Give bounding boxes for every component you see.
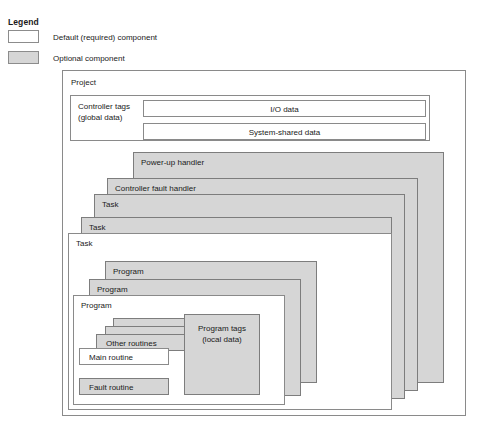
controller-tags-label-line2: (global data) xyxy=(78,113,122,122)
system-shared-data-box: System-shared data xyxy=(143,123,426,140)
io-data-label: I/O data xyxy=(144,104,425,113)
task-label-2: Task xyxy=(89,223,105,233)
fault-routine-box: Fault routine xyxy=(79,378,169,395)
io-data-box: I/O data xyxy=(143,100,426,117)
system-shared-data-label: System-shared data xyxy=(144,127,425,136)
other-routines-label: Other routines xyxy=(106,338,157,347)
program-tags-label-line1: Program tags xyxy=(198,324,246,333)
task-label-main: Task xyxy=(76,239,92,249)
controller-fault-handler-label: Controller fault handler xyxy=(115,184,196,194)
main-routine-label: Main routine xyxy=(89,352,133,361)
power-up-handler-label: Power-up handler xyxy=(141,158,204,168)
program-label-3: Program xyxy=(113,267,144,277)
controller-tags-label: Controller tags (global data) xyxy=(78,102,130,124)
project-label: Project xyxy=(71,78,96,88)
program-label-main: Program xyxy=(81,301,112,311)
main-routine-box: Main routine xyxy=(79,348,169,365)
controller-tags-label-line1: Controller tags xyxy=(78,102,130,111)
task-label-3: Task xyxy=(102,200,118,210)
legend-optional-label: Optional component xyxy=(53,54,125,63)
legend-default-label: Default (required) component xyxy=(53,33,157,42)
program-tags-label: Program tags (local data) xyxy=(185,324,259,346)
legend-optional-swatch xyxy=(8,51,39,64)
legend-default-swatch xyxy=(8,30,39,43)
fault-routine-label: Fault routine xyxy=(89,382,133,391)
program-label-2: Program xyxy=(97,285,128,295)
program-tags-box: Program tags (local data) xyxy=(184,314,260,395)
legend-title: Legend xyxy=(8,17,39,27)
program-tags-label-line2: (local data) xyxy=(202,335,242,344)
